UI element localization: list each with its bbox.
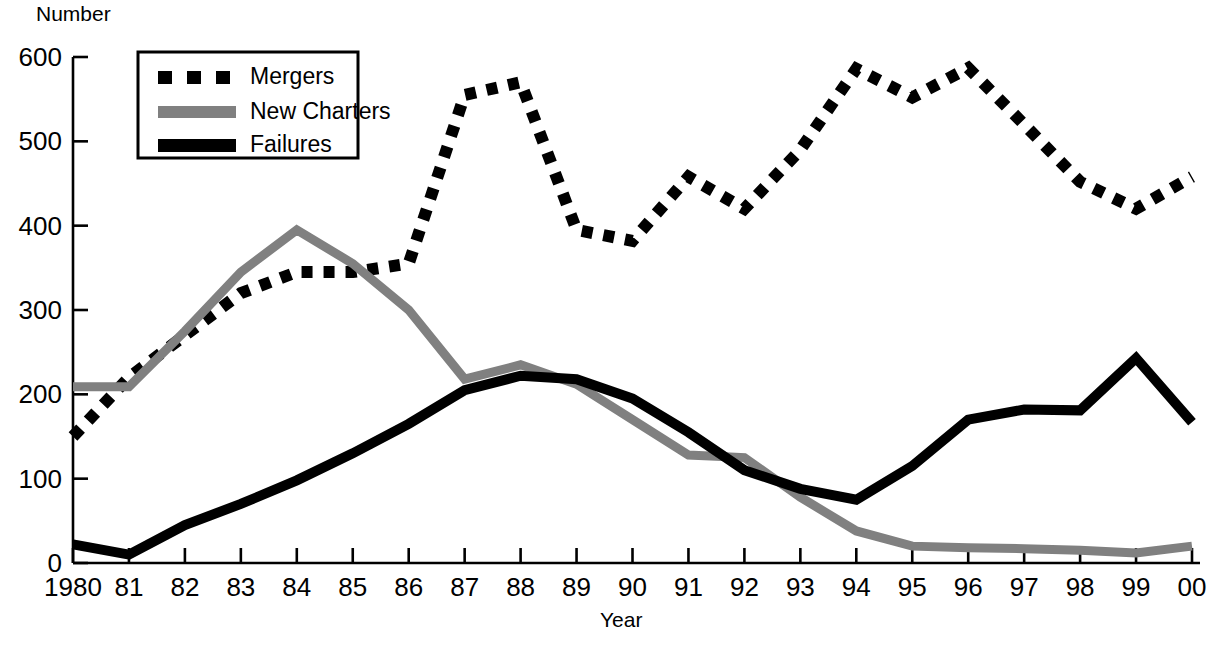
legend-swatch-mergers <box>187 71 201 84</box>
x-tick-label: 99 <box>1122 572 1151 602</box>
x-tick-label: 81 <box>114 572 143 602</box>
y-tick-label: 300 <box>19 295 62 325</box>
x-tick-label: 89 <box>562 572 591 602</box>
legend-swatch-mergers <box>158 71 172 84</box>
plot-area: 0100200300400500600 19808182838485868788… <box>0 0 1231 648</box>
x-tick-label: 83 <box>226 572 255 602</box>
legend-label-mergers: Mergers <box>250 63 334 89</box>
legend-swatch-mergers <box>216 71 230 84</box>
legend-label-new-charters: New Charters <box>250 98 391 124</box>
x-tick-label: 92 <box>730 572 759 602</box>
x-tick-label: 86 <box>394 572 423 602</box>
chart-legend: MergersNew ChartersFailures <box>138 52 391 158</box>
x-tick-label: 91 <box>674 572 703 602</box>
y-tick-label: 200 <box>19 379 62 409</box>
y-tick-label: 400 <box>19 211 62 241</box>
y-tick-label: 500 <box>19 126 62 156</box>
legend-swatch-failures <box>158 139 236 152</box>
legend-label-failures: Failures <box>250 131 332 157</box>
y-tick-label: 600 <box>19 42 62 72</box>
x-tick-label: 94 <box>842 572 871 602</box>
y-tick-label: 100 <box>19 464 62 494</box>
x-tick-label: 88 <box>506 572 535 602</box>
x-tick-label: 90 <box>618 572 647 602</box>
legend-swatch-new-charters <box>158 106 236 118</box>
x-tick-label: 97 <box>1010 572 1039 602</box>
series-line-failures <box>73 358 1192 554</box>
x-tick-label: 93 <box>786 572 815 602</box>
x-tick-label: 87 <box>450 572 479 602</box>
x-tick-label: 96 <box>954 572 983 602</box>
x-tick-label: 1980 <box>44 572 102 602</box>
x-tick-label: 98 <box>1066 572 1095 602</box>
x-axis-tick-labels: 1980818283848586878889909192939495969798… <box>44 572 1206 602</box>
x-tick-label: 82 <box>170 572 199 602</box>
x-tick-label: 85 <box>338 572 367 602</box>
x-tick-label: 84 <box>282 572 311 602</box>
y-axis-tick-labels: 0100200300400500600 <box>19 42 62 578</box>
y-axis-ticks <box>73 57 88 563</box>
x-tick-label: 00 <box>1178 572 1207 602</box>
x-tick-label: 95 <box>898 572 927 602</box>
bank-structure-line-chart: Number Year 0100200300400500600 19808182… <box>0 0 1231 648</box>
